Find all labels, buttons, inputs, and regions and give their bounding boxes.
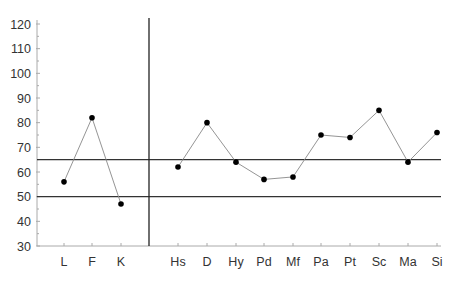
x-label-k: K bbox=[117, 255, 126, 269]
x-label-l: L bbox=[61, 255, 68, 269]
y-tick-label: 80 bbox=[17, 116, 31, 130]
data-point-k bbox=[118, 201, 124, 207]
data-point-pa bbox=[318, 132, 324, 138]
x-label-pd: Pd bbox=[256, 255, 271, 269]
y-tick-label: 90 bbox=[17, 92, 31, 106]
y-tick-label: 60 bbox=[17, 166, 31, 180]
x-label-ma: Ma bbox=[399, 255, 416, 269]
data-point-ma bbox=[405, 159, 411, 165]
data-point-l bbox=[61, 179, 67, 185]
y-tick-label: 120 bbox=[10, 18, 31, 32]
data-point-hs bbox=[175, 164, 181, 170]
data-point-pt bbox=[347, 135, 353, 141]
reference-lines bbox=[37, 160, 441, 197]
x-label-mf: Mf bbox=[286, 255, 300, 269]
y-tick-label: 100 bbox=[10, 67, 31, 81]
y-tick-label: 110 bbox=[11, 42, 31, 56]
data-point-pd bbox=[261, 177, 267, 183]
data-point-mf bbox=[290, 174, 296, 180]
x-label-pa: Pa bbox=[313, 255, 328, 269]
profile-chart: 30405060708090100110120 LFKHsDHyPdMfPaPt… bbox=[0, 0, 453, 282]
data-point-d bbox=[204, 120, 210, 126]
y-axis: 30405060708090100110120 bbox=[10, 18, 40, 254]
data-point-si bbox=[434, 130, 440, 136]
y-tick-label: 40 bbox=[17, 215, 31, 229]
y-tick-label: 30 bbox=[17, 240, 31, 254]
data-point-hy bbox=[233, 159, 239, 165]
x-label-hy: Hy bbox=[228, 255, 244, 269]
validity-line bbox=[64, 118, 121, 204]
data-point-sc bbox=[376, 108, 382, 114]
x-axis: LFKHsDHyPdMfPaPtScMaSi bbox=[37, 243, 443, 269]
x-label-hs: Hs bbox=[170, 255, 185, 269]
clinical-line bbox=[178, 110, 437, 179]
y-tick-label: 50 bbox=[17, 190, 31, 204]
x-label-si: Si bbox=[431, 255, 442, 269]
data-point-f bbox=[89, 115, 95, 121]
x-label-sc: Sc bbox=[372, 255, 387, 269]
x-label-d: D bbox=[202, 255, 211, 269]
y-tick-label: 70 bbox=[17, 141, 31, 155]
x-label-f: F bbox=[88, 255, 96, 269]
x-label-pt: Pt bbox=[344, 255, 356, 269]
data-series bbox=[61, 108, 440, 207]
